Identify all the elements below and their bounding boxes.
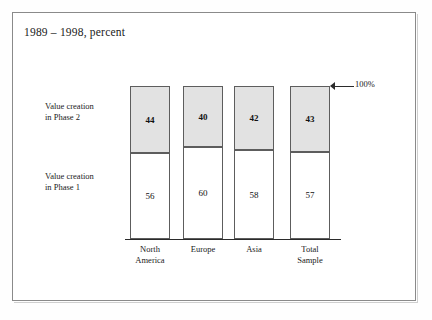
annotation-arrow-icon bbox=[330, 82, 335, 90]
bar-column: 4258 bbox=[234, 86, 274, 239]
bar-segment-phase2: 43 bbox=[290, 86, 330, 152]
plot-area: 4456North America4060Europe4258Asia4357T… bbox=[0, 0, 432, 320]
bar-segment-phase1: 56 bbox=[130, 153, 170, 239]
bar-column: 4456 bbox=[130, 86, 170, 239]
bar-column: 4357 bbox=[290, 86, 330, 239]
bar-segment-phase2: 44 bbox=[130, 86, 170, 153]
bar-segment-phase2: 40 bbox=[183, 86, 223, 147]
bar-value-phase1: 58 bbox=[250, 190, 259, 200]
bar-column: 4060 bbox=[183, 86, 223, 239]
category-label: Total Sample bbox=[277, 244, 343, 265]
bar-value-phase2: 40 bbox=[199, 112, 208, 122]
bar-segment-phase1: 57 bbox=[290, 152, 330, 239]
figure-root: 1989 – 1998, percent Value creation in P… bbox=[0, 0, 432, 320]
bar-value-phase1: 56 bbox=[146, 191, 155, 201]
bar-value-phase2: 44 bbox=[146, 115, 155, 125]
annotation-100-percent: 100% bbox=[355, 79, 375, 89]
bar-segment-phase1: 60 bbox=[183, 147, 223, 239]
x-axis-line bbox=[125, 239, 341, 240]
bar-segment-phase2: 42 bbox=[234, 86, 274, 150]
bar-value-phase2: 43 bbox=[306, 114, 315, 124]
bar-segment-phase1: 58 bbox=[234, 150, 274, 239]
bar-value-phase1: 60 bbox=[199, 188, 208, 198]
annotation-leader-line bbox=[334, 86, 354, 87]
bar-value-phase2: 42 bbox=[250, 113, 259, 123]
bar-value-phase1: 57 bbox=[306, 190, 315, 200]
